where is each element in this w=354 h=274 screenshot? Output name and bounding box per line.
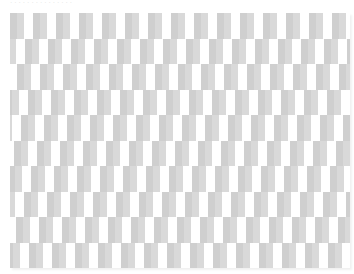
pattern-row [10, 90, 350, 116]
pattern-row [10, 39, 350, 65]
pattern-row [10, 217, 350, 243]
pattern-row [10, 13, 350, 39]
pattern-row [10, 141, 350, 167]
pattern-row [10, 192, 350, 218]
pattern-row [10, 243, 350, 269]
pattern-row [10, 115, 350, 141]
pattern-row [10, 166, 350, 192]
tile-pattern [10, 13, 350, 268]
pattern-row [10, 64, 350, 90]
caption-text: · · · · · · · · · · · · · · · [10, 0, 72, 6]
